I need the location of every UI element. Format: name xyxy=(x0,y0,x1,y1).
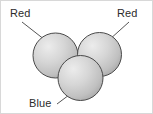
label-red-left: Red xyxy=(10,7,30,20)
sphere-diagram-figure: Red Red Blue xyxy=(0,0,153,114)
label-red-right: Red xyxy=(117,7,137,20)
label-blue: Blue xyxy=(29,97,51,110)
sphere-bottom xyxy=(58,56,103,101)
